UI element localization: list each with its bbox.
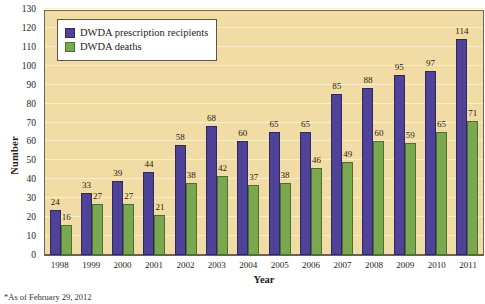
bar-group: 11471 — [452, 11, 483, 255]
legend-item-deaths: DWDA deaths — [65, 41, 208, 53]
legend-item-recipients: DWDA prescription recipients — [65, 27, 208, 39]
bar: 42 — [217, 176, 228, 255]
bar-value-label: 21 — [155, 203, 164, 212]
bar: 27 — [123, 204, 134, 255]
bar: 39 — [112, 181, 123, 255]
bar-value-label: 16 — [62, 213, 71, 222]
bar-value-label: 65 — [301, 120, 310, 129]
bar-value-label: 39 — [113, 169, 122, 178]
x-axis-tick: 2007 — [327, 258, 358, 272]
bar: 65 — [436, 132, 447, 255]
bar-value-label: 58 — [176, 133, 185, 142]
bar-value-label: 49 — [343, 150, 352, 159]
bar-group: 9559 — [389, 11, 420, 255]
bar: 49 — [342, 162, 353, 255]
bar-group: 9765 — [420, 11, 451, 255]
bar-chart: Number 0102030405060708090100110120130 2… — [0, 0, 485, 304]
chart-legend: DWDA prescription recipients DWDA deaths — [57, 19, 217, 61]
x-axis-tick: 2009 — [390, 258, 421, 272]
bar-value-label: 33 — [82, 181, 91, 190]
purple-swatch-icon — [65, 28, 75, 38]
bar-group: 6538 — [264, 11, 295, 255]
bar-value-label: 27 — [93, 192, 102, 201]
bar: 21 — [154, 215, 165, 255]
bar: 46 — [311, 168, 322, 255]
x-axis-tick: 1999 — [75, 258, 106, 272]
y-axis-tick: 100 — [22, 62, 36, 72]
bar-value-label: 42 — [218, 164, 227, 173]
bar: 58 — [175, 145, 186, 255]
y-axis-tick: 0 — [31, 251, 36, 261]
bar-value-label: 68 — [207, 114, 216, 123]
bar-value-label: 27 — [124, 192, 133, 201]
y-axis-tick: 90 — [27, 81, 37, 91]
bar-group: 6546 — [295, 11, 326, 255]
bar-value-label: 85 — [332, 82, 341, 91]
x-axis-tick: 2001 — [138, 258, 169, 272]
bar-value-label: 97 — [426, 59, 435, 68]
bar-value-label: 88 — [363, 76, 372, 85]
bar-value-label: 38 — [187, 171, 196, 180]
y-axis-tick: 50 — [27, 157, 37, 167]
bar: 38 — [186, 183, 197, 255]
y-axis-tick: 60 — [27, 138, 37, 148]
bar: 68 — [206, 126, 217, 255]
bar: 59 — [405, 143, 416, 255]
bar-group: 8860 — [358, 11, 389, 255]
x-axis-tick: 1998 — [44, 258, 75, 272]
bar-value-label: 95 — [395, 63, 404, 72]
x-axis-tick: 2004 — [233, 258, 264, 272]
bar: 65 — [300, 132, 311, 255]
bar: 88 — [362, 88, 373, 255]
legend-label-deaths: DWDA deaths — [80, 41, 142, 53]
bar: 114 — [456, 39, 467, 255]
bar: 95 — [394, 75, 405, 255]
green-swatch-icon — [65, 42, 75, 52]
y-axis-tick: 10 — [27, 232, 37, 242]
bar-value-label: 71 — [468, 109, 477, 118]
bar: 27 — [92, 204, 103, 255]
x-axis-tick: 2003 — [201, 258, 232, 272]
bar: 16 — [61, 225, 72, 255]
bar-value-label: 24 — [51, 198, 60, 207]
y-axis-tick-labels: 0102030405060708090100110120130 — [0, 10, 42, 256]
y-axis-tick: 30 — [27, 194, 37, 204]
legend-label-recipients: DWDA prescription recipients — [80, 27, 208, 39]
y-axis-tick: 110 — [22, 43, 36, 53]
bar-value-label: 46 — [312, 156, 321, 165]
bar: 60 — [373, 141, 384, 255]
y-axis-tick: 120 — [22, 24, 36, 34]
y-axis-tick: 130 — [22, 5, 36, 15]
y-axis-tick: 70 — [27, 119, 37, 129]
bar-value-label: 60 — [238, 129, 247, 138]
y-axis-tick: 40 — [27, 176, 37, 186]
bar: 71 — [467, 121, 478, 255]
gridline — [45, 8, 483, 9]
bar: 97 — [425, 71, 436, 255]
bar: 24 — [50, 210, 61, 255]
x-axis-tick: 2002 — [170, 258, 201, 272]
bar-group: 6037 — [233, 11, 264, 255]
bar: 37 — [248, 185, 259, 255]
x-axis-tick-labels: 1998199920002001200220032004200520062007… — [44, 258, 484, 272]
bar-value-label: 65 — [437, 120, 446, 129]
bar: 38 — [280, 183, 291, 255]
y-axis-tick: 20 — [27, 213, 37, 223]
bar-value-label: 38 — [281, 171, 290, 180]
bar-group: 8549 — [327, 11, 358, 255]
bar-value-label: 59 — [406, 131, 415, 140]
x-axis-title: Year — [44, 274, 484, 285]
x-axis-tick: 2008 — [358, 258, 389, 272]
bar: 60 — [237, 141, 248, 255]
x-axis-tick: 2005 — [264, 258, 295, 272]
bar: 65 — [269, 132, 280, 255]
bar: 33 — [81, 193, 92, 255]
bar-value-label: 44 — [144, 160, 153, 169]
footnote: *As of February 29, 2012 — [4, 292, 92, 302]
bar: 85 — [331, 94, 342, 255]
x-axis-tick: 2011 — [452, 258, 483, 272]
bar-value-label: 37 — [249, 173, 258, 182]
x-axis-tick: 2006 — [295, 258, 326, 272]
x-axis-tick: 2000 — [107, 258, 138, 272]
bar: 44 — [143, 172, 154, 255]
